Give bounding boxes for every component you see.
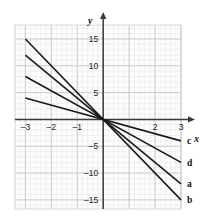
- x-tick-3: 3: [179, 122, 184, 132]
- coordinate-plane-chart: –3–2–12315105–5–10–15 x y cdab: [0, 0, 212, 218]
- y-tick-neg15: –15: [84, 195, 98, 205]
- y-tick-neg5: –5: [89, 141, 99, 151]
- x-tick-neg3: –3: [21, 122, 31, 132]
- y-tick-5: 5: [93, 88, 98, 98]
- series-label-a: a: [187, 179, 192, 189]
- x-tick-2: 2: [153, 122, 158, 132]
- x-axis-label: x: [193, 133, 199, 144]
- y-tick-15: 15: [89, 34, 99, 44]
- y-tick-10: 10: [89, 61, 99, 71]
- series-end-labels: cdab: [187, 136, 193, 205]
- series-label-b: b: [187, 195, 192, 205]
- x-tick-neg2: –2: [47, 122, 57, 132]
- series-label-d: d: [187, 158, 193, 168]
- y-axis-label: y: [87, 15, 93, 26]
- y-tick-neg10: –10: [84, 168, 98, 178]
- series-label-c: c: [187, 136, 191, 146]
- x-tick-neg1: –1: [73, 122, 83, 132]
- chart-figure: –3–2–12315105–5–10–15 x y cdab: [0, 0, 212, 218]
